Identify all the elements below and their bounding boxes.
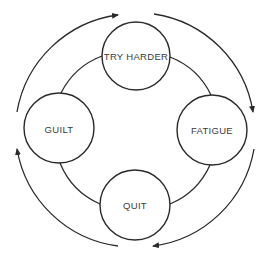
node-label-try-harder: TRY HARDER (101, 51, 171, 62)
connector-try-harder-fatigue (170, 57, 211, 95)
node-label-quit: QUIT (100, 200, 170, 211)
connector-fatigue-quit (170, 165, 210, 204)
node-label-fatigue: FATIGUE (177, 125, 247, 136)
node-label-guilt: GUILT (24, 124, 94, 135)
connector-quit-guilt (60, 163, 100, 204)
connector-guilt-try-harder (61, 56, 102, 93)
